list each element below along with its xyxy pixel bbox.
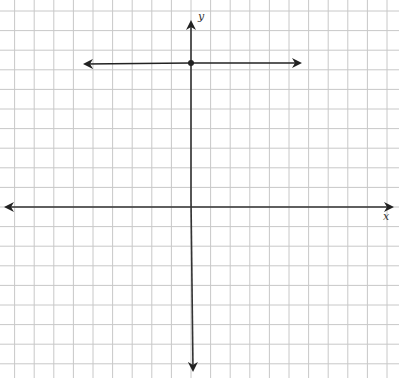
point-marker	[188, 60, 194, 66]
x-axis-label: x	[383, 210, 389, 223]
coordinate-plane	[0, 0, 399, 378]
horizontal-line	[85, 63, 191, 64]
y-axis-label: y	[198, 10, 204, 23]
grid-lines	[0, 0, 399, 378]
